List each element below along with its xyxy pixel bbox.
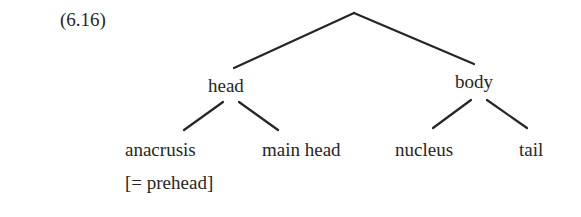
node-anacrusis-gloss: [= prehead] <box>125 173 213 192</box>
edge-body-tail <box>487 100 527 128</box>
node-anacrusis: anacrusis <box>125 140 196 159</box>
edge-head-main-head <box>239 102 278 130</box>
edge-root-head <box>234 13 354 68</box>
node-body: body <box>455 72 493 91</box>
edge-head-anacrusis <box>184 102 223 130</box>
node-tail: tail <box>519 140 543 159</box>
edge-body-nucleus <box>433 100 471 128</box>
edge-root-body <box>354 13 474 64</box>
node-head: head <box>208 76 244 95</box>
tree-edges <box>0 0 581 217</box>
node-nucleus: nucleus <box>395 140 453 159</box>
node-main-head: main head <box>262 140 341 159</box>
